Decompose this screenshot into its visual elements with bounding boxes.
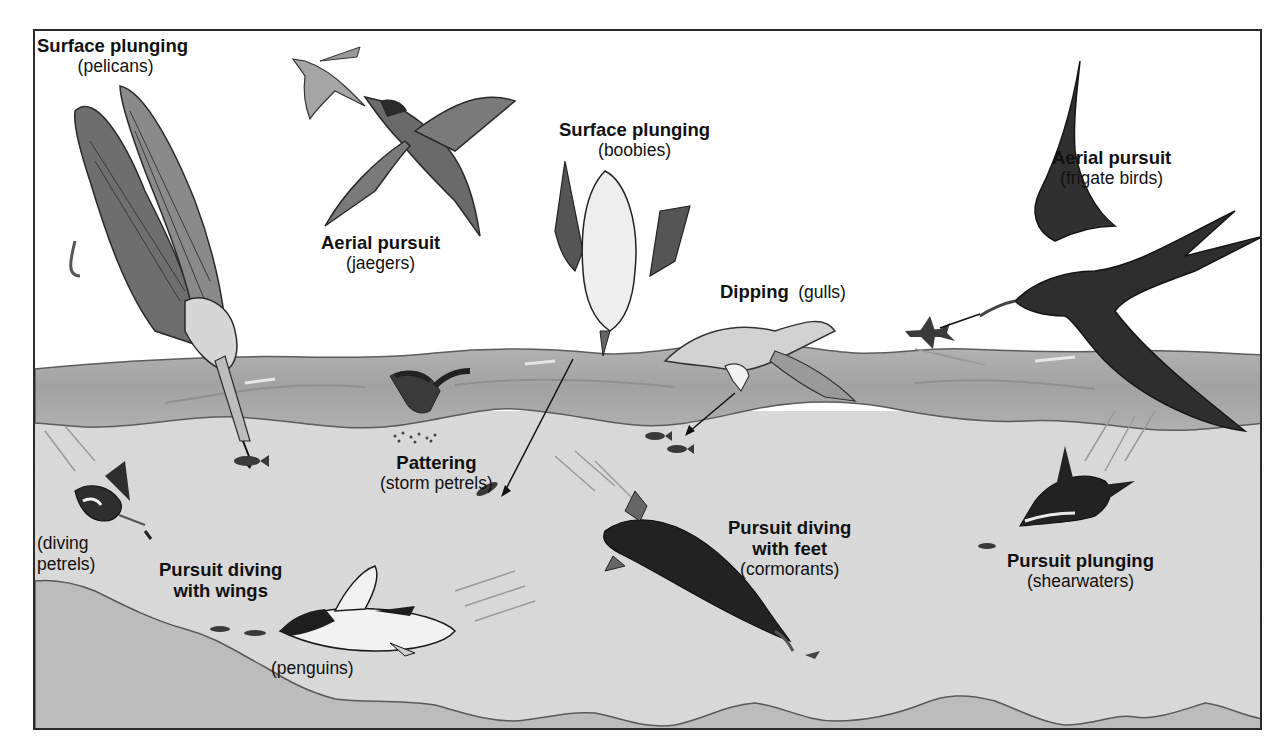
label-penguins-group: (penguins) (271, 658, 354, 679)
jaeger-icon (325, 97, 515, 236)
method-text: Surface plunging (559, 119, 710, 140)
label-storm-petrels: Pattering (storm petrels) (380, 452, 493, 494)
bird-group-text: (jaegers) (321, 253, 440, 274)
bird-group-text: (pelicans) (37, 56, 188, 77)
label-shearwaters: Pursuit plunging (shearwaters) (1007, 550, 1154, 592)
bird-group-text: (storm petrels) (380, 473, 493, 494)
label-jaegers: Aerial pursuit (jaegers) (321, 232, 440, 274)
method-text: with wings (159, 580, 282, 601)
bird-group-text: (diving (37, 533, 95, 554)
method-text: with feet (728, 538, 851, 559)
method-text: Dipping (720, 281, 789, 302)
label-pelicans: Surface plunging (pelicans) (37, 35, 188, 77)
method-text: Aerial pursuit (321, 232, 440, 253)
bird-group-text: (frigate birds) (1052, 168, 1171, 189)
illustration-frame: Surface plunging (pelicans) Aerial pursu… (33, 29, 1262, 730)
bird-group-text: (gulls) (798, 282, 846, 302)
label-penguins-method: Pursuit diving with wings (159, 559, 282, 601)
flying-fish-icon (905, 314, 980, 349)
method-text: Surface plunging (37, 35, 188, 56)
method-text: Pursuit diving (159, 559, 282, 580)
label-frigate-birds: Aerial pursuit (frigate birds) (1052, 147, 1171, 189)
bird-group-text: (penguins) (271, 658, 354, 679)
label-cormorants: Pursuit diving with feet (cormorants) (728, 517, 851, 580)
label-boobies: Surface plunging (boobies) (559, 119, 710, 161)
bird-group-text: petrels) (37, 554, 95, 575)
method-text: Pursuit diving (728, 517, 851, 538)
label-gulls: Dipping (gulls) (720, 281, 846, 303)
bird-group-text: (cormorants) (728, 559, 851, 580)
bird-group-text: (boobies) (559, 140, 710, 161)
method-text: Pattering (380, 452, 493, 473)
label-diving-petrels: (diving petrels) (37, 533, 95, 575)
tern-icon (293, 47, 365, 119)
method-text: Aerial pursuit (1052, 147, 1171, 168)
method-text: Pursuit plunging (1007, 550, 1154, 571)
bird-group-text: (shearwaters) (1007, 571, 1154, 592)
